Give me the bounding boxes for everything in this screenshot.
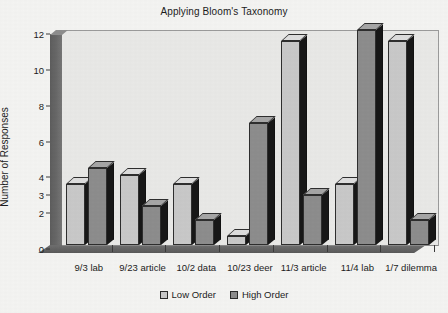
- legend-swatch-icon: [160, 291, 168, 299]
- legend-item-low-order[interactable]: Low Order: [160, 289, 216, 300]
- bar-low-order: [120, 175, 139, 245]
- bar-high-order: [303, 195, 322, 245]
- legend-label: High Order: [242, 289, 288, 300]
- chart-legend: Low OrderHigh Order: [0, 289, 448, 300]
- x-axis-category-label: 1/7 dilemma: [384, 262, 438, 273]
- chart-title: Applying Bloom's Taxonomy: [0, 6, 448, 17]
- bar-front-face: [335, 184, 354, 245]
- x-axis-tick-mark: [112, 245, 113, 252]
- y-axis-tick-label: 2: [39, 208, 44, 219]
- bar-high-order: [142, 206, 161, 245]
- bar-front-face: [120, 175, 139, 245]
- y-axis-tick-label: 0: [39, 244, 44, 255]
- bar-side-face: [107, 162, 114, 245]
- y-axis-tick-mark: [46, 177, 50, 178]
- y-axis-tick-mark: [46, 213, 50, 214]
- bar-front-face: [303, 195, 322, 245]
- x-axis-tick-mark: [165, 245, 166, 252]
- y-axis-tick-mark: [46, 34, 50, 35]
- bar-side-face: [376, 24, 383, 245]
- bar-side-face: [322, 189, 329, 245]
- legend-label: Low Order: [172, 289, 216, 300]
- plot-area: 0234681012: [50, 30, 438, 258]
- x-axis-tick-mark: [327, 245, 328, 252]
- bar-high-order: [88, 168, 107, 245]
- axis-left-wall: [50, 34, 62, 253]
- bar-low-order: [173, 184, 192, 245]
- legend-swatch-icon: [230, 291, 238, 299]
- bar-front-face: [281, 41, 300, 245]
- bar-high-order: [357, 30, 376, 245]
- y-axis-label: Number of Responses: [0, 107, 10, 207]
- legend-item-high-order[interactable]: High Order: [230, 289, 288, 300]
- bar-low-order: [281, 41, 300, 245]
- bar-front-face: [249, 123, 268, 245]
- bar-front-face: [227, 236, 246, 245]
- y-axis-tick-mark: [46, 195, 50, 196]
- bar-chart-figure: Applying Bloom's Taxonomy Number of Resp…: [0, 0, 448, 313]
- x-axis-tick-mark: [273, 245, 274, 252]
- y-axis-tick-mark: [46, 69, 50, 70]
- bar-low-order: [227, 236, 246, 245]
- bar-side-face: [268, 117, 275, 245]
- bar-group: [169, 30, 223, 245]
- x-axis-category-label: 9/23 article: [116, 262, 170, 273]
- bar-high-order: [249, 123, 268, 245]
- bar-group: [116, 30, 170, 245]
- bar-low-order: [388, 41, 407, 245]
- bar-side-face: [407, 35, 414, 245]
- bar-front-face: [66, 184, 85, 245]
- bar-low-order: [335, 184, 354, 245]
- y-axis-tick-label: 3: [39, 190, 44, 201]
- bar-high-order: [195, 220, 214, 245]
- x-axis-category-label: 9/3 lab: [62, 262, 116, 273]
- y-axis-tick-label: 4: [39, 172, 44, 183]
- bar-low-order: [66, 184, 85, 245]
- x-axis-tick-mark: [434, 245, 435, 252]
- y-axis-tick-label: 6: [39, 136, 44, 147]
- x-axis-category-label: 11/3 article: [277, 262, 331, 273]
- bar-front-face: [88, 168, 107, 245]
- plot-floor: [38, 245, 426, 253]
- y-axis-tick-label: 10: [33, 64, 44, 75]
- y-axis-tick-mark: [46, 141, 50, 142]
- plot-floor-edge: [62, 245, 438, 246]
- y-axis-tick-label: 12: [33, 29, 44, 40]
- bar-front-face: [388, 41, 407, 245]
- bar-front-face: [357, 30, 376, 245]
- bar-front-face: [410, 220, 429, 245]
- bar-series-container: [62, 30, 438, 245]
- x-axis-category-label: 10/2 data: [169, 262, 223, 273]
- bar-group: [62, 30, 116, 245]
- bar-front-face: [195, 220, 214, 245]
- bar-high-order: [410, 220, 429, 245]
- bar-front-face: [142, 206, 161, 245]
- bar-side-face: [161, 200, 168, 245]
- x-axis-category-label: 11/4 lab: [331, 262, 385, 273]
- x-axis-category-label: 10/23 deer: [223, 262, 277, 273]
- bar-group: [223, 30, 277, 245]
- y-axis-tick-label: 8: [39, 100, 44, 111]
- bar-group: [331, 30, 385, 245]
- x-axis-tick-mark: [219, 245, 220, 252]
- x-axis-labels: 9/3 lab9/23 article10/2 data10/23 deer11…: [50, 262, 438, 276]
- bar-front-face: [173, 184, 192, 245]
- bar-group: [384, 30, 438, 245]
- y-axis-tick-mark: [46, 105, 50, 106]
- bar-side-face: [214, 214, 221, 245]
- bar-group: [277, 30, 331, 245]
- y-axis-tick-mark: [46, 249, 50, 250]
- x-axis-tick-mark: [380, 245, 381, 252]
